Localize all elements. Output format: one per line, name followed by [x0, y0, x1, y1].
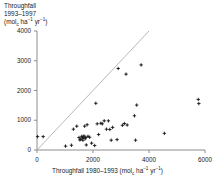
one-to-one-line [37, 31, 149, 150]
one-to-one-reference-line [37, 31, 149, 150]
data-point [133, 114, 136, 117]
data-point [94, 102, 97, 105]
data-point [97, 133, 100, 136]
y-tick-label: 2000 [0, 87, 31, 94]
data-point [124, 72, 127, 75]
y-units-mid: ha [19, 18, 28, 25]
data-point [107, 119, 110, 122]
y-tick-label: 1000 [0, 116, 31, 123]
data-point [64, 144, 67, 147]
data-points [36, 63, 201, 148]
y-tick-label: 4000 [0, 27, 31, 34]
data-point [108, 128, 111, 131]
data-point [121, 124, 124, 127]
y-units-post: ) [45, 18, 47, 25]
data-point [105, 127, 108, 130]
y-axis-label: Throughfall 1993–1997 (molc ha−1 yr−1) [4, 2, 47, 27]
x-tick-label: 0 [17, 156, 57, 163]
data-point [85, 143, 88, 146]
data-point [135, 103, 138, 106]
data-point [93, 144, 96, 147]
plot-canvas [0, 0, 215, 180]
data-point [41, 135, 44, 138]
data-point [163, 132, 166, 135]
data-point [36, 135, 39, 138]
data-point [139, 63, 142, 66]
y-tick-label: 3000 [0, 57, 31, 64]
axes-group [37, 31, 205, 150]
data-point [197, 98, 200, 101]
data-point [96, 122, 99, 125]
data-point [115, 138, 118, 141]
y-tick-label: 0 [0, 146, 31, 153]
x-tick-label: 2000 [73, 156, 113, 163]
x-label-mid2: yr [148, 167, 155, 174]
data-point [72, 127, 75, 130]
x-label-mid: ha [134, 167, 143, 174]
data-point [70, 144, 73, 147]
x-tick-label: 6000 [185, 156, 215, 163]
data-point [110, 138, 113, 141]
data-point [197, 102, 200, 105]
x-label-pre: Throughfall 1980–1993 (mol [52, 167, 132, 174]
x-tick-label: 4000 [129, 156, 169, 163]
x-label-post: ) [161, 167, 163, 174]
data-point [75, 125, 78, 128]
data-point [111, 126, 114, 129]
data-point [134, 138, 137, 141]
x-axis-label: Throughfall 1980–1993 (molc ha−1 yr−1) [0, 167, 215, 174]
data-point [90, 141, 93, 144]
y-axis-label-line1: Throughfall [4, 2, 47, 10]
data-point [117, 67, 120, 70]
y-units-mid2: yr [33, 18, 40, 25]
data-point [103, 119, 106, 122]
y-units-pre: (mol [4, 18, 16, 25]
chart-figure: Throughfall 1993–1997 (molc ha−1 yr−1) 0… [0, 0, 215, 180]
y-axis-label-units: (molc ha−1 yr−1) [4, 18, 47, 26]
